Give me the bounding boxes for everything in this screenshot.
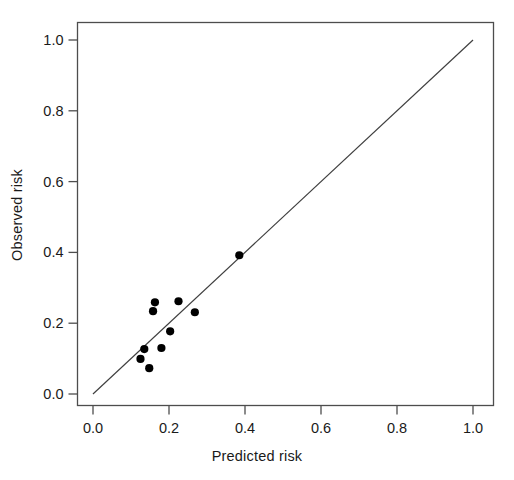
x-tick-label: 0.4	[235, 420, 255, 436]
x-tick-label: 1.0	[463, 420, 483, 436]
scatter-point	[140, 345, 148, 353]
calibration-plot-canvas	[0, 0, 514, 480]
identity-reference-line	[93, 40, 473, 394]
scatter-point	[191, 308, 199, 316]
y-axis-label: Observed risk	[9, 169, 25, 261]
y-axis-label-container: Observed risk	[0, 0, 34, 430]
scatter-point	[151, 298, 159, 306]
x-axis-label: Predicted risk	[0, 448, 514, 464]
scatter-point	[235, 251, 243, 259]
scatter-point	[145, 364, 153, 372]
scatter-point	[136, 355, 144, 363]
calibration-plot-figure: 0.00.20.40.60.81.0 0.00.20.40.60.81.0 Pr…	[0, 0, 514, 480]
x-tick-label: 0.0	[83, 420, 103, 436]
identity-line-segment	[93, 40, 473, 394]
scatter-point	[166, 327, 174, 335]
scatter-point	[174, 297, 182, 305]
x-tick-label: 0.8	[387, 420, 407, 436]
x-tick-label: 0.6	[311, 420, 331, 436]
scatter-point	[157, 344, 165, 352]
scatter-point	[149, 307, 157, 315]
y-axis-ticks	[69, 40, 78, 394]
x-axis-ticks	[93, 406, 473, 415]
x-tick-label: 0.2	[159, 420, 179, 436]
